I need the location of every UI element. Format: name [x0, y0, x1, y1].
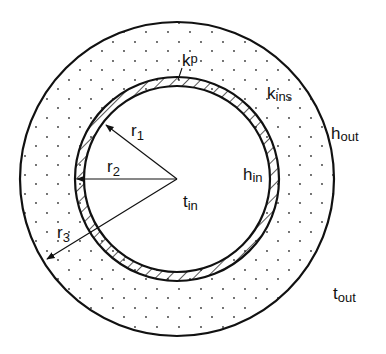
- pipe-insulation-diagram: kp kins hout hin tin tout r1 r2 r3: [0, 0, 386, 354]
- label-h-out: hout: [331, 124, 359, 144]
- label-t-out: tout: [333, 284, 356, 305]
